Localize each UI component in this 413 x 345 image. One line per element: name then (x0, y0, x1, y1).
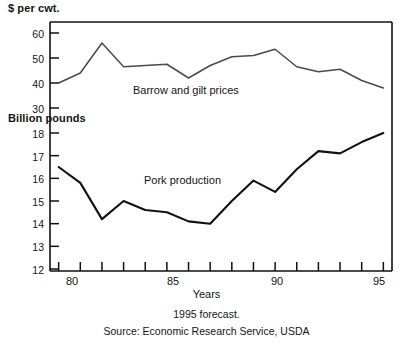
chart-canvas (0, 0, 413, 345)
plot-frame (50, 22, 392, 271)
chart-figure: $ per cwt. Billion pounds 60 50 40 30 18… (0, 0, 413, 345)
line-pork-production (59, 133, 384, 224)
line-barrow-gilt-prices (59, 43, 384, 88)
